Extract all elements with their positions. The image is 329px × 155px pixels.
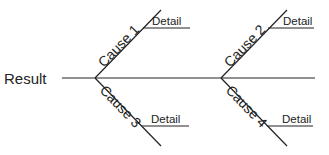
detail-3-label: Detail [151,113,180,125]
cause-1-label: Cause 1 [95,21,143,70]
cause-4-label: Cause 4 [223,82,271,131]
fishbone-svg: Result Cause 1 Cause 2 Cause 3 Cause 4 D… [0,0,329,155]
cause-2-label: Cause 2 [221,21,269,70]
result-label: Result [4,70,47,87]
cause-3-label: Cause 3 [97,82,145,131]
detail-4-label: Detail [282,113,311,125]
detail-1-label: Detail [152,15,181,27]
detail-2-label: Detail [283,15,312,27]
fishbone-diagram: Result Cause 1 Cause 2 Cause 3 Cause 4 D… [0,0,329,155]
